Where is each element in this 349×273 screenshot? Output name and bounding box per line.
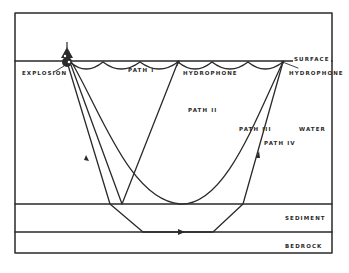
water-label: WATER [299,127,326,133]
path-3-label: PATH III [239,127,272,133]
path-1-label: PATH I [128,68,154,74]
path-4-label: PATH IV [264,141,296,147]
hydrophone-1-label: HYDROPHONE [183,71,238,77]
seismic-path-diagram [0,0,349,273]
sediment-label: SEDIMENT [285,216,326,222]
hydrophone-2-arrow [285,63,298,68]
path-4-line [68,62,283,232]
hydrophone-2-icon [281,60,284,63]
path-4-downward-arrow [84,155,89,161]
surface-label: SURFACE [293,57,331,63]
path-2-label: PATH II [188,108,217,114]
path-2-line [71,62,178,204]
bedrock-arrow-icon [178,229,185,235]
explosion-label: EXPLOSION [22,71,67,77]
bedrock-label: BEDROCK [285,244,322,250]
hydrophone-2-label: HYDROPHONE [289,71,344,77]
explosion-icon [61,42,73,67]
hydrophone-1-icon [176,60,179,63]
